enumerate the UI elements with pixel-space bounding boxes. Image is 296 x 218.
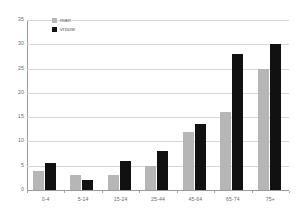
legend-item-vrouw[interactable]: vrouw [52, 25, 112, 33]
x-tickmark [252, 191, 253, 193]
bar-vrouw-45-64[interactable] [195, 124, 206, 190]
x-tick-label-75+: 75+ [252, 196, 289, 202]
x-tickmark [64, 191, 65, 193]
bar-vrouw-5-14[interactable] [82, 180, 93, 190]
legend-label-vrouw: vrouw [60, 26, 75, 32]
x-axis-tickmarks [27, 191, 289, 194]
bar-group [252, 20, 289, 190]
bar-man-45-64[interactable] [183, 132, 194, 190]
y-tick-label-10: 10 [2, 138, 24, 143]
x-tick-label-65-74: 65-74 [214, 196, 251, 202]
bar-man-0-4[interactable] [33, 171, 44, 190]
y-tick-label-5: 5 [2, 163, 24, 168]
x-tickmark [214, 191, 215, 193]
x-tickmark [139, 191, 140, 193]
bar-vrouw-0-4[interactable] [45, 163, 56, 190]
x-tickmark [27, 191, 28, 193]
y-tick-label-30: 30 [2, 41, 24, 46]
x-tickmark [289, 191, 290, 193]
bar-group [102, 20, 139, 190]
chart-legend: man vrouw [52, 16, 112, 34]
y-axis-tick-labels: 05101520253035 [0, 20, 24, 191]
bar-chart: 05101520253035 0-45-1415-2425-4445-6465-… [0, 0, 296, 218]
bar-group [139, 20, 176, 190]
x-tickmark [102, 191, 103, 193]
y-tick-label-0: 0 [2, 187, 24, 192]
x-tickmark [177, 191, 178, 193]
bar-group [177, 20, 214, 190]
x-tick-label-15-24: 15-24 [102, 196, 139, 202]
x-tick-label-0-4: 0-4 [27, 196, 64, 202]
bar-group [214, 20, 251, 190]
y-tick-label-20: 20 [2, 90, 24, 95]
bars-layer [27, 20, 289, 190]
x-tick-label-5-14: 5-14 [64, 196, 101, 202]
bar-group [27, 20, 64, 190]
bar-vrouw-25-44[interactable] [157, 151, 168, 190]
bar-man-25-44[interactable] [145, 166, 156, 190]
bar-man-15-24[interactable] [108, 175, 119, 190]
legend-item-man[interactable]: man [52, 16, 112, 24]
bar-vrouw-75+[interactable] [270, 44, 281, 190]
bar-man-75+[interactable] [258, 69, 269, 190]
vrouw-swatch-icon [52, 27, 57, 32]
bar-vrouw-65-74[interactable] [232, 54, 243, 190]
bar-vrouw-15-24[interactable] [120, 161, 131, 190]
x-tick-label-25-44: 25-44 [139, 196, 176, 202]
man-swatch-icon [52, 18, 57, 23]
bar-group [64, 20, 101, 190]
y-tick-label-35: 35 [2, 17, 24, 22]
y-tick-label-25: 25 [2, 66, 24, 71]
x-tick-label-45-64: 45-64 [177, 196, 214, 202]
bar-man-5-14[interactable] [70, 175, 81, 190]
x-axis-tick-labels: 0-45-1415-2425-4445-6465-7475+ [27, 196, 289, 210]
bar-man-65-74[interactable] [220, 112, 231, 190]
y-tick-label-15: 15 [2, 114, 24, 119]
legend-label-man: man [60, 17, 71, 23]
